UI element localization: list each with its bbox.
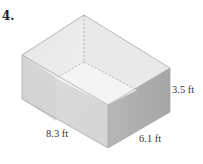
- width-label: 6.1 ft: [139, 133, 161, 144]
- height-label: 3.5 ft: [172, 84, 194, 95]
- rectangular-prism-figure: [0, 0, 203, 164]
- length-label: 8.3 ft: [46, 128, 68, 139]
